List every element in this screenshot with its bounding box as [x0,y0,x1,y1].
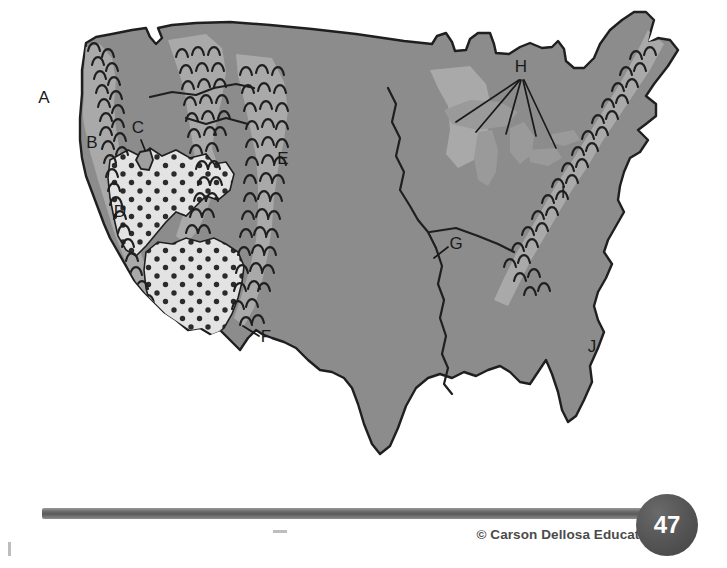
map-label-G: G [449,234,462,253]
map-label-E: E [277,149,288,168]
landmass [80,12,678,454]
map-label-H: H [515,57,527,76]
copyright-credit: © Carson Dellosa Education [0,527,660,542]
scan-artifact-left [8,542,11,556]
us-outline [80,12,678,454]
map-figure: A B C D E F G H I J [0,0,727,480]
map-label-C: C [132,118,144,137]
map-label-I: I [561,183,566,202]
map-label-J: J [588,337,597,356]
footer-rule [42,508,652,519]
map-label-A: A [38,88,50,107]
scan-artifact-center [273,530,287,533]
page-footer: © Carson Dellosa Education [0,480,727,568]
map-label-D: D [114,202,126,221]
worksheet-page: A B C D E F G H I J © Carson Dellosa Edu… [0,0,727,568]
map-svg: A B C D E F G H I J [0,0,727,480]
page-number-badge: 47 [636,494,698,556]
map-label-B: B [86,133,97,152]
map-label-F: F [261,327,271,346]
desert-regions [108,148,244,342]
